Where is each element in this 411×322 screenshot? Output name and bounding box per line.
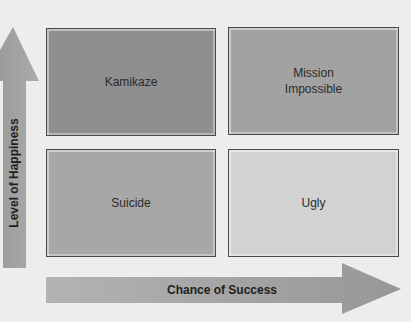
quadrant-label: Mission Impossible [285, 65, 342, 97]
quadrant-kamikaze: Kamikaze [46, 28, 216, 136]
quadrant-label: Kamikaze [105, 74, 158, 90]
quadrant-suicide: Suicide [46, 149, 216, 257]
quadrant-ugly: Ugly [228, 149, 399, 257]
quadrant-label: Suicide [111, 195, 150, 211]
quadrant-label: Ugly [301, 195, 325, 211]
quadrant-mission-impossible: Mission Impossible [228, 27, 399, 135]
y-axis-label: Level of Happiness [7, 118, 21, 227]
x-axis-label: Chance of Success [167, 283, 277, 297]
